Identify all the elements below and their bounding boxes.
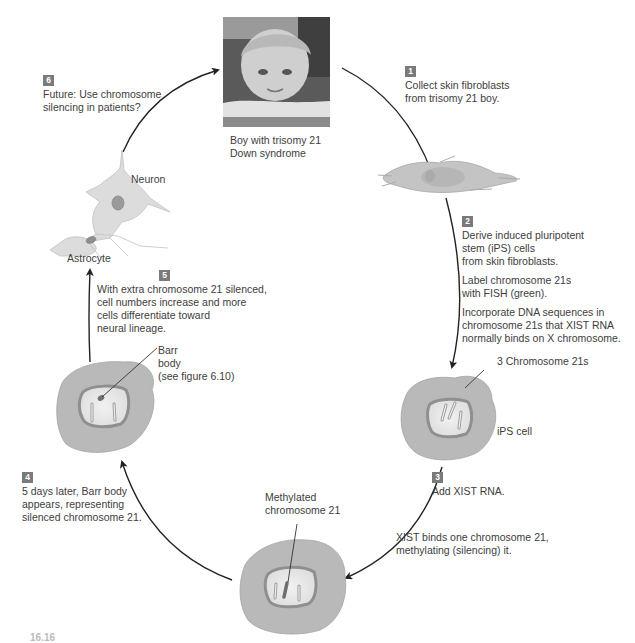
step-badge: 5 [159,270,170,281]
step-3-detail: XIST binds one chromosome 21, methylatin… [396,531,549,557]
label-methylated-chromosome: Methylated chromosome 21 [265,491,340,517]
arrow-step-5 [89,270,90,362]
step-6: 6 Future: Use chromosome silencing in pa… [43,73,161,114]
figure-number: 16.16 [30,632,55,643]
step-3: 3 Add XIST RNA. [432,470,505,498]
label-three-chromosomes: 3 Chromosome 21s [497,355,589,368]
barr-body-cell [57,348,157,452]
arrow-step-2 [446,198,460,367]
label-barr-body: Barr body (see figure 6.10) [158,344,234,383]
arrow-step-3 [346,467,442,578]
step-badge: 6 [43,75,54,86]
fibroblast-cell [378,156,520,193]
step-1: 1 Collect skin fibroblasts from trisomy … [405,64,509,105]
boy-photo [223,17,330,127]
step-badge: 1 [405,66,416,77]
step-5: 5 With extra chromosome 21 silenced, cel… [97,268,267,335]
label-astrocyte: Astrocyte [67,252,111,265]
label-neuron: Neuron [131,173,165,186]
step-4: 4 5 days later, Barr body appears, repre… [22,470,142,524]
step-badge: 2 [462,216,473,227]
neuron-astrocyte [50,150,170,262]
label-ips-cell: iPS cell [497,425,532,438]
ips-cell [401,370,496,460]
step-badge: 3 [432,472,443,483]
photo-caption: Boy with trisomy 21 Down syndrome [230,134,321,160]
step-badge: 4 [22,472,33,483]
methylated-cell [240,524,346,634]
step-2: 2 Derive induced pluripotent stem (iPS) … [462,214,621,345]
